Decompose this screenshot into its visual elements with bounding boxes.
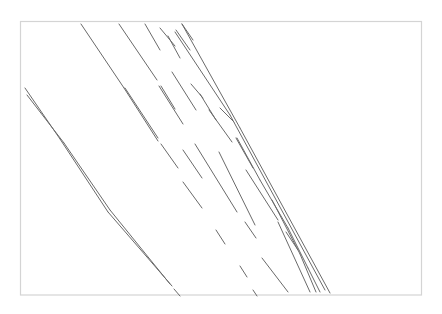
pencil-stroke bbox=[64, 143, 110, 210]
pencil-stroke bbox=[161, 86, 175, 109]
pencil-stroke bbox=[81, 24, 124, 88]
pencil-stroke bbox=[27, 95, 64, 143]
pencil-stroke bbox=[183, 182, 202, 208]
pencil-stroke bbox=[262, 258, 288, 292]
pencil-stroke bbox=[124, 88, 158, 141]
pencil-stroke bbox=[240, 128, 330, 293]
pencil-stroke bbox=[209, 110, 232, 142]
pencil-stroke bbox=[110, 210, 170, 284]
pencil-stroke bbox=[119, 24, 157, 80]
pencil-stroke bbox=[159, 86, 183, 124]
pencil-stroke bbox=[161, 144, 178, 168]
pencil-stroke bbox=[168, 36, 180, 58]
pencil-stroke bbox=[145, 24, 160, 50]
sketch-canvas bbox=[0, 0, 442, 314]
pencil-stroke bbox=[60, 139, 108, 212]
pencil-stroke bbox=[286, 232, 298, 250]
pencil-stroke bbox=[175, 32, 230, 115]
pencil-stroke bbox=[216, 230, 225, 244]
pencil-stroke bbox=[183, 150, 202, 178]
pencil-stroke bbox=[160, 28, 175, 46]
pencil-stroke bbox=[172, 72, 196, 110]
pencil-stroke bbox=[125, 88, 158, 138]
pencil-stroke bbox=[240, 266, 247, 277]
sketch-frame bbox=[21, 22, 422, 296]
pencil-strokes bbox=[25, 24, 330, 296]
pencil-stroke bbox=[195, 144, 237, 212]
